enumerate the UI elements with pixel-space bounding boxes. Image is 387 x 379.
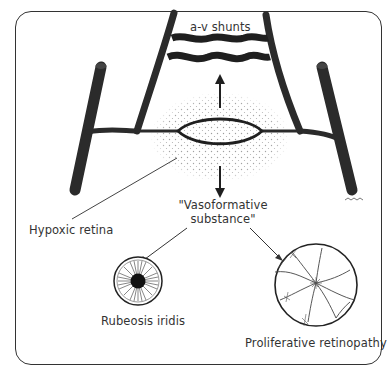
label-vasoformative: "Vasoformative substance": [168, 198, 278, 226]
hypoxic-pointer: [72, 158, 177, 219]
label-vaso-line1: "Vasoformative: [168, 198, 278, 212]
retina-diagram: [0, 0, 387, 379]
rubeosis-eye-icon: [114, 257, 162, 305]
signature-mark: [345, 198, 363, 200]
label-proliferative-retinopathy: Proliferative retinopathy: [245, 336, 387, 350]
label-hypoxic-retina: Hypoxic retina: [29, 223, 113, 237]
fundus-icon: [275, 244, 357, 326]
label-av-shunts: a-v shunts: [190, 20, 251, 34]
label-rubeosis-iridis: Rubeosis iridis: [101, 314, 185, 328]
label-vaso-line2: substance": [168, 212, 278, 226]
av-shunts: [168, 37, 270, 59]
vaso-arrows: [139, 228, 283, 264]
